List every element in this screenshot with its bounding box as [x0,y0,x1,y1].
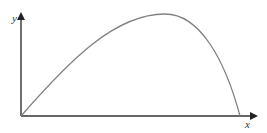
diagram: y x [0,0,267,133]
x-axis-label: x [244,118,250,130]
curve [21,14,240,116]
y-axis-label: y [11,12,17,24]
trajectory-diagram: y x [0,0,267,133]
